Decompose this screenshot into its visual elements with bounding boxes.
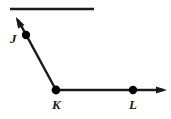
point-dot-j	[22, 31, 30, 39]
point-label-j: J	[10, 32, 17, 45]
arrowhead-right-icon	[156, 86, 167, 93]
geometry-figure: J K L	[0, 0, 171, 119]
point-dot-l	[129, 86, 137, 94]
geometry-canvas	[0, 0, 171, 119]
point-label-l: L	[129, 98, 137, 111]
ray-k-to-j	[18, 21, 56, 90]
point-dot-k	[52, 86, 61, 95]
point-label-k: K	[52, 98, 61, 111]
